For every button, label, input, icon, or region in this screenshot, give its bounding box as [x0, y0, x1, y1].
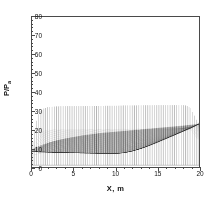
x-tick-minor	[48, 167, 49, 169]
y-tick-minor	[31, 43, 33, 44]
y-tick-minor	[31, 24, 33, 25]
y-tick-label: 20	[22, 127, 42, 134]
x-tick-label: 10	[106, 170, 126, 178]
y-tick-minor	[31, 27, 33, 28]
x-tick-minor	[175, 167, 176, 169]
y-tick-label: 70	[22, 32, 42, 39]
y-tick-label: 80	[22, 13, 42, 20]
y-tick-label: 60	[22, 51, 42, 58]
figure-container: 01020304050607080 05101520 X, m P/Pa	[0, 0, 222, 205]
y-tick-label: 50	[22, 70, 42, 77]
y-tick-minor	[31, 77, 33, 78]
y-tick-minor	[31, 134, 33, 135]
y-tick-label: 40	[22, 89, 42, 96]
y-axis-title: P/Pa	[2, 61, 11, 117]
y-tick-minor	[31, 20, 33, 21]
y-tick-minor	[31, 58, 33, 59]
x-tick-minor	[65, 167, 66, 169]
y-tick-minor	[31, 138, 33, 139]
y-tick-minor	[31, 62, 33, 63]
x-tick-minor	[141, 167, 142, 169]
x-tick-minor	[56, 167, 57, 169]
plot-frame	[31, 16, 200, 168]
plot-data-canvas	[32, 17, 199, 167]
y-tick-minor	[31, 157, 33, 158]
x-tick-minor	[124, 167, 125, 169]
y-tick-label: 10	[22, 146, 42, 153]
x-tick-label: 15	[148, 170, 168, 178]
x-tick-minor	[107, 167, 108, 169]
y-tick-minor	[31, 141, 33, 142]
y-tick-label: 30	[22, 108, 42, 115]
y-tick-minor	[31, 84, 33, 85]
x-tick-minor	[82, 167, 83, 169]
y-tick-minor	[31, 119, 33, 120]
y-tick-minor	[31, 39, 33, 40]
y-axis-title-main: P/P	[2, 84, 11, 96]
x-axis-title: X, m	[31, 184, 200, 193]
x-tick-minor	[149, 167, 150, 169]
y-tick-minor	[31, 81, 33, 82]
x-tick-minor	[99, 167, 100, 169]
x-tick-minor	[192, 167, 193, 169]
y-tick-minor	[31, 160, 33, 161]
y-tick-minor	[31, 100, 33, 101]
y-tick-minor	[31, 122, 33, 123]
x-tick-minor	[90, 167, 91, 169]
y-tick-minor	[31, 103, 33, 104]
y-tick-minor	[31, 96, 33, 97]
y-tick-minor	[31, 65, 33, 66]
x-tick-minor	[183, 167, 184, 169]
y-tick-minor	[31, 46, 33, 47]
x-tick-minor	[132, 167, 133, 169]
x-tick-label: 0	[21, 170, 41, 178]
x-tick-label: 5	[63, 170, 83, 178]
y-tick-minor	[31, 115, 33, 116]
y-tick-minor	[31, 153, 33, 154]
x-tick-label: 20	[190, 170, 210, 178]
x-tick-minor	[166, 167, 167, 169]
